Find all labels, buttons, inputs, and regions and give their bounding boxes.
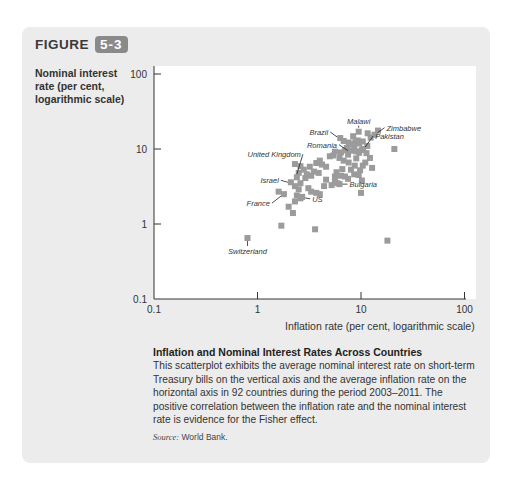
annotation-label: US <box>312 195 322 204</box>
data-point <box>323 164 329 170</box>
x-tick-label: 0.1 <box>147 304 161 315</box>
data-point <box>244 235 250 241</box>
x-tick-label: 100 <box>456 304 473 315</box>
data-point <box>353 155 359 161</box>
data-point <box>299 194 305 200</box>
annotation-leader-line <box>281 180 288 182</box>
caption-source: Source: World Bank. <box>153 432 478 442</box>
caption-title: Inflation and Nominal Interest Rates Acr… <box>153 346 478 359</box>
data-point <box>362 160 368 166</box>
source-value: World Bank. <box>182 432 228 442</box>
data-point <box>308 189 314 195</box>
data-point <box>337 155 343 161</box>
data-point <box>350 133 356 139</box>
data-point <box>312 226 318 232</box>
data-point <box>308 173 314 179</box>
data-point <box>276 189 282 195</box>
data-point <box>321 183 327 189</box>
data-point <box>358 190 364 196</box>
x-tick-label: 1 <box>255 304 261 315</box>
data-point <box>337 181 343 187</box>
data-point <box>356 129 362 135</box>
source-label: Source: <box>153 432 179 442</box>
data-point <box>323 177 329 183</box>
data-point <box>290 210 296 216</box>
annotation-label: Switzerland <box>228 247 268 256</box>
annotation-leader-line <box>330 132 337 137</box>
annotation-leader-line <box>272 196 281 203</box>
annotation-leader-line <box>305 198 310 199</box>
y-tick-label: 1 <box>141 219 147 230</box>
annotation-label: Malawi <box>347 117 371 126</box>
annotation-label: Romania <box>307 141 337 150</box>
annotation-label: United Kingdom <box>247 150 300 159</box>
data-point <box>278 223 284 229</box>
y-tick-label: 10 <box>136 144 148 155</box>
data-point <box>391 146 397 152</box>
data-point <box>292 161 298 167</box>
data-point <box>316 170 322 176</box>
data-point <box>349 141 355 147</box>
data-point <box>360 138 366 144</box>
data-point <box>369 165 375 171</box>
data-point <box>292 198 298 204</box>
annotation-label: Brazil <box>309 128 328 137</box>
data-point <box>281 191 287 197</box>
figure-caption: Inflation and Nominal Interest Rates Acr… <box>153 346 478 442</box>
data-point <box>365 130 371 136</box>
caption-body: This scatterplot exhibits the average no… <box>153 359 478 427</box>
y-tick-label: 100 <box>130 69 147 80</box>
x-tick-label: 10 <box>355 304 367 315</box>
x-axis-label: Inflation rate (per cent, logarithmic sc… <box>285 320 475 332</box>
annotation-label: France <box>247 199 270 208</box>
data-point <box>352 163 358 169</box>
data-point <box>286 204 292 210</box>
data-point <box>339 166 345 172</box>
data-point <box>313 160 319 166</box>
annotation-label: Bulgaria <box>350 180 378 189</box>
annotation-label: Israel <box>261 176 280 185</box>
data-point <box>297 180 303 186</box>
y-tick-label: 0.1 <box>133 294 147 305</box>
data-point <box>384 238 390 244</box>
annotation-label: Pakistan <box>375 132 404 141</box>
data-point <box>288 179 294 185</box>
